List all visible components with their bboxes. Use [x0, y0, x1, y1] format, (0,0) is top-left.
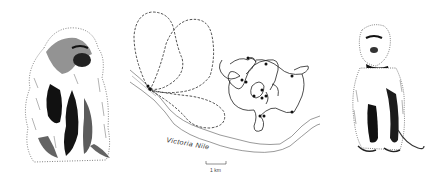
- scale-bar: [206, 161, 226, 164]
- solid-routes: [219, 58, 308, 132]
- dashed-routes: [134, 12, 225, 128]
- ranging-map: Victoria Nile 1 km: [130, 0, 320, 183]
- river-label: Victoria Nile: [166, 136, 210, 150]
- figure: Victoria Nile 1 km: [0, 0, 435, 183]
- baboon-illustration: [14, 18, 126, 166]
- route-points: [241, 57, 294, 118]
- scale-label: 1 km: [210, 167, 221, 173]
- monkey-illustration: [340, 20, 425, 160]
